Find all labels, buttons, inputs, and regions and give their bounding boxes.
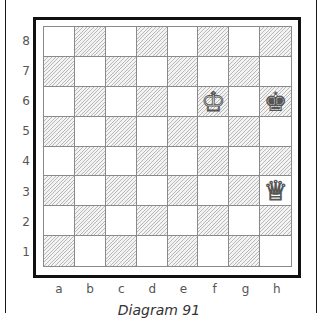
file-label-h: h	[271, 282, 283, 296]
square-b1	[75, 236, 106, 266]
square-b7	[75, 57, 106, 87]
square-c7	[106, 57, 137, 87]
square-b3	[75, 176, 106, 206]
file-label-f: f	[209, 282, 221, 296]
square-d5	[137, 117, 168, 147]
square-b6	[75, 87, 106, 117]
square-h8	[260, 27, 291, 57]
square-e5	[168, 117, 199, 147]
square-e3	[168, 176, 199, 206]
file-label-e: e	[177, 282, 189, 296]
square-a6	[44, 87, 75, 117]
square-f4	[198, 147, 229, 177]
square-b5	[75, 117, 106, 147]
file-label-d: d	[146, 282, 158, 296]
square-a5	[44, 117, 75, 147]
square-e1	[168, 236, 199, 266]
black-king-icon: ♚	[263, 88, 287, 115]
square-h6: ♚	[260, 87, 291, 117]
square-a8	[44, 27, 75, 57]
square-d1	[137, 236, 168, 266]
square-e6	[168, 87, 199, 117]
file-label-a: a	[53, 282, 65, 296]
square-d8	[137, 27, 168, 57]
file-label-c: c	[115, 282, 127, 296]
rank-label-3: 3	[20, 185, 32, 199]
square-a3	[44, 176, 75, 206]
square-g3	[229, 176, 260, 206]
square-h5	[260, 117, 291, 147]
square-g5	[229, 117, 260, 147]
square-e8	[168, 27, 199, 57]
square-f6: ♔	[198, 87, 229, 117]
square-b2	[75, 206, 106, 236]
square-h1	[260, 236, 291, 266]
square-f8	[198, 27, 229, 57]
square-a4	[44, 147, 75, 177]
square-a2	[44, 206, 75, 236]
left-margin-rule	[5, 0, 6, 313]
square-h7	[260, 57, 291, 87]
square-e7	[168, 57, 199, 87]
square-g7	[229, 57, 260, 87]
square-e2	[168, 206, 199, 236]
rank-label-4: 4	[20, 154, 32, 168]
square-f2	[198, 206, 229, 236]
white-queen-icon: ♕	[263, 177, 287, 204]
square-g2	[229, 206, 260, 236]
square-a7	[44, 57, 75, 87]
square-h4	[260, 147, 291, 177]
square-a1	[44, 236, 75, 266]
square-c3	[106, 176, 137, 206]
square-d6	[137, 87, 168, 117]
square-f5	[198, 117, 229, 147]
square-d2	[137, 206, 168, 236]
square-c6	[106, 87, 137, 117]
rank-label-5: 5	[20, 124, 32, 138]
rank-label-7: 7	[20, 64, 32, 78]
square-d4	[137, 147, 168, 177]
square-g8	[229, 27, 260, 57]
square-f7	[198, 57, 229, 87]
white-king-icon: ♔	[201, 88, 225, 115]
rank-label-2: 2	[20, 215, 32, 229]
file-label-g: g	[240, 282, 252, 296]
square-c5	[106, 117, 137, 147]
square-d7	[137, 57, 168, 87]
rank-label-1: 1	[20, 245, 32, 259]
rank-label-6: 6	[20, 94, 32, 108]
square-d3	[137, 176, 168, 206]
square-c4	[106, 147, 137, 177]
square-g1	[229, 236, 260, 266]
square-c2	[106, 206, 137, 236]
right-margin-rule	[316, 0, 317, 313]
square-e4	[168, 147, 199, 177]
square-h2	[260, 206, 291, 236]
diagram-caption: Diagram 91	[0, 302, 318, 318]
square-f3	[198, 176, 229, 206]
square-h3: ♕	[260, 176, 291, 206]
rank-label-8: 8	[20, 34, 32, 48]
square-b4	[75, 147, 106, 177]
square-g6	[229, 87, 260, 117]
square-f1	[198, 236, 229, 266]
square-g4	[229, 147, 260, 177]
square-c8	[106, 27, 137, 57]
square-c1	[106, 236, 137, 266]
chess-board: ♔♚♕	[43, 26, 292, 267]
file-label-b: b	[84, 282, 96, 296]
square-b8	[75, 27, 106, 57]
